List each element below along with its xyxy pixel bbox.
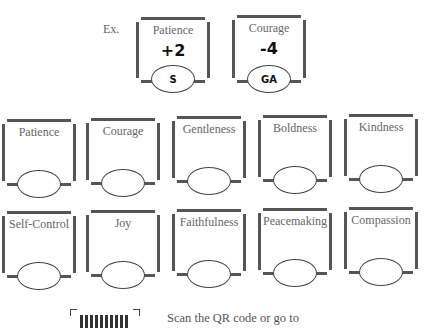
virtue-card-compassion: Compassion	[344, 207, 418, 274]
card-title: Patience	[136, 23, 210, 38]
card-title: Self-Control	[2, 217, 76, 232]
card-oval-input[interactable]	[359, 258, 403, 286]
card-oval-input[interactable]	[187, 260, 231, 288]
virtue-card-joy: Joy	[86, 210, 160, 277]
virtue-card-courage: Courage	[86, 118, 160, 185]
card-title: Patience	[2, 125, 76, 140]
virtue-card-peacemaking: Peacemaking	[258, 208, 332, 275]
card-title: Kindness	[344, 120, 418, 135]
card-title: Peacemaking	[258, 214, 332, 229]
example-card-patience: Patience +2 S	[136, 17, 210, 83]
card-oval-input[interactable]	[17, 262, 61, 290]
virtue-card-self-control: Self-Control	[2, 211, 76, 278]
card-oval-input[interactable]	[101, 169, 145, 197]
card-oval-input[interactable]	[273, 166, 317, 194]
card-oval-input[interactable]	[187, 167, 231, 195]
virtue-card-gentleness: Gentleness	[172, 116, 246, 183]
virtue-card-kindness: Kindness	[344, 114, 418, 181]
virtue-card-faithfulness: Faithfulness	[172, 209, 246, 276]
card-title: Gentleness	[172, 122, 246, 137]
virtue-card-patience: Patience	[2, 119, 76, 186]
scan-instruction: Scan the QR code or go to	[167, 311, 299, 326]
card-oval-input[interactable]	[17, 170, 61, 198]
card-oval-input[interactable]	[359, 165, 403, 193]
card-score: +2	[136, 41, 210, 60]
example-card-courage: Courage -4 GA	[232, 15, 306, 83]
card-oval: S	[151, 65, 195, 93]
card-title: Boldness	[258, 121, 332, 136]
card-score: -4	[232, 39, 306, 58]
card-oval-input[interactable]	[101, 261, 145, 289]
card-title: Courage	[86, 124, 160, 139]
qr-pattern	[80, 315, 130, 328]
card-title: Joy	[86, 216, 160, 231]
example-label: Ex.	[103, 22, 119, 37]
card-title: Compassion	[344, 213, 418, 228]
qr-bracket	[133, 309, 140, 316]
card-oval: GA	[247, 65, 291, 93]
card-oval-input[interactable]	[273, 259, 317, 287]
card-title: Faithfulness	[172, 215, 246, 230]
virtue-card-boldness: Boldness	[258, 115, 332, 182]
qr-bracket	[70, 309, 77, 316]
card-title: Courage	[232, 21, 306, 36]
qr-code-icon[interactable]	[70, 309, 140, 328]
